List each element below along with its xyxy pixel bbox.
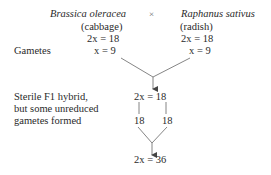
diagram-lines xyxy=(0,0,271,175)
unreduced-right: 18 xyxy=(162,115,173,127)
hybrid-label-line1: Sterile F1 hybrid, xyxy=(14,91,88,103)
unreduced-left: 18 xyxy=(134,115,145,127)
right-chromosomes: 2x = 18 xyxy=(181,33,213,45)
gametes-label: Gametes xyxy=(14,45,51,57)
right-gamete-line xyxy=(153,58,190,77)
hybrid-label-line3: gametes formed xyxy=(14,115,81,127)
result-chromosomes: 2x = 36 xyxy=(134,154,166,166)
cross-symbol: × xyxy=(149,8,154,20)
right-merge-line xyxy=(152,127,167,143)
left-gamete-line xyxy=(121,58,153,77)
right-common-name: (radish) xyxy=(180,21,213,33)
left-gamete: x = 9 xyxy=(94,45,116,57)
hybrid-chromosomes: 2x = 18 xyxy=(134,91,166,103)
left-species: Brassica oleracea xyxy=(50,8,126,20)
left-common-name: (cabbage) xyxy=(81,21,122,33)
left-merge-line xyxy=(138,127,152,143)
right-gamete: x = 9 xyxy=(189,45,211,57)
hybrid-label-line2: but some unreduced xyxy=(14,103,99,115)
left-chromosomes: 2x = 18 xyxy=(87,33,119,45)
right-species: Raphanus sativus xyxy=(181,8,255,20)
